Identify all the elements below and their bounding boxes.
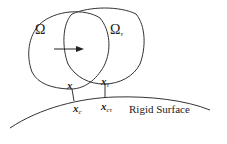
label-omega-tau: Ωτ xyxy=(110,23,123,38)
x-tau-sub: τ xyxy=(107,81,110,89)
x-text: x xyxy=(67,79,73,91)
x-ctau-sub: cτ xyxy=(107,106,113,114)
label-x-ctau: xcτ xyxy=(101,101,112,114)
body-omega-tau xyxy=(64,8,144,84)
motion-arrow-head xyxy=(76,46,84,52)
label-rigid-surface: Rigid Surface xyxy=(129,104,190,115)
omega-text: Ω xyxy=(35,22,45,37)
label-x: x xyxy=(67,80,73,91)
label-x-tau: xτ xyxy=(101,76,109,89)
x-c-sub: c xyxy=(79,108,82,116)
label-omega: Ω xyxy=(35,23,45,37)
omega-tau-sub: τ xyxy=(120,30,123,38)
label-x-c: xc xyxy=(73,103,82,116)
rigid-surface-text: Rigid Surface xyxy=(129,103,190,115)
omega-tau-base: Ω xyxy=(110,22,120,37)
